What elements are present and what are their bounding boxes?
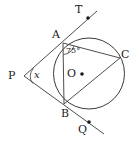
chord-b-c — [64, 58, 120, 104]
geometry-figure: A B C O P T Q 75° x — [0, 0, 139, 144]
center-dot-icon — [80, 72, 84, 76]
label-point-a: A — [52, 29, 60, 40]
label-angle-x: x — [34, 70, 40, 80]
chord-a-b — [63, 43, 64, 104]
label-angle-75: 75° — [66, 47, 80, 55]
label-point-t: T — [75, 4, 82, 15]
point-dot-t-icon — [86, 16, 90, 20]
label-point-p: P — [8, 70, 15, 81]
line-p-a-t — [24, 11, 97, 76]
label-point-q: Q — [78, 124, 87, 135]
point-dot-q-icon — [87, 120, 91, 124]
label-point-o: O — [67, 68, 76, 79]
label-point-b: B — [61, 108, 69, 119]
label-point-c: C — [121, 49, 129, 60]
